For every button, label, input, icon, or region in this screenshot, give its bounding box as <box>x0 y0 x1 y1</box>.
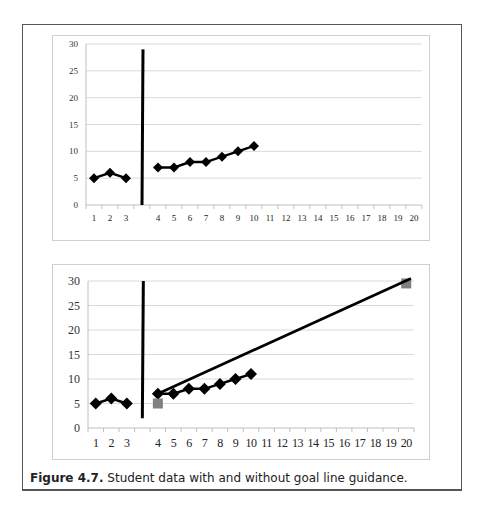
data-point <box>169 162 179 172</box>
y-tick-label: 0 <box>74 200 79 210</box>
x-tick-label: 5 <box>171 436 177 450</box>
data-point <box>90 398 102 410</box>
x-tick-label: 6 <box>186 436 192 450</box>
x-tick-label: 13 <box>298 213 308 223</box>
y-tick-label: 5 <box>74 173 79 183</box>
x-tick-label: 13 <box>292 436 304 450</box>
x-tick-label: 4 <box>156 213 161 223</box>
figure-caption: Figure 4.7. Student data with and withou… <box>30 471 408 485</box>
x-tick-label: 8 <box>217 436 223 450</box>
x-tick-label: 16 <box>346 213 356 223</box>
x-tick-label: 17 <box>362 213 372 223</box>
chart-without-goal-line: 0510152025301234567891011121314151617181… <box>52 35 430 241</box>
phase-change-line <box>142 281 143 418</box>
data-point <box>121 398 133 410</box>
y-tick-label: 25 <box>69 66 79 76</box>
x-tick-label: 12 <box>277 436 289 450</box>
chart-with-goal-line: 0510152025301234567891011121314151617181… <box>52 264 430 460</box>
y-tick-label: 5 <box>74 397 80 411</box>
y-tick-label: 30 <box>69 39 79 49</box>
caption-text: Student data with and without goal line … <box>104 471 408 485</box>
x-tick-label: 18 <box>378 213 388 223</box>
data-point <box>233 146 243 156</box>
y-tick-label: 30 <box>68 274 80 288</box>
data-point <box>217 152 227 162</box>
caption-label: Figure 4.7. <box>30 471 104 485</box>
data-point <box>105 168 115 178</box>
y-tick-label: 15 <box>68 348 80 362</box>
x-tick-label: 20 <box>410 213 420 223</box>
data-point <box>249 141 259 151</box>
y-tick-label: 10 <box>68 372 80 386</box>
x-tick-label: 9 <box>236 213 241 223</box>
x-tick-label: 6 <box>188 213 193 223</box>
x-tick-label: 10 <box>250 213 260 223</box>
y-tick-label: 20 <box>68 323 80 337</box>
x-tick-label: 9 <box>233 436 239 450</box>
data-point <box>153 162 163 172</box>
x-tick-label: 7 <box>204 213 209 223</box>
x-tick-label: 16 <box>339 436 351 450</box>
y-tick-label: 25 <box>68 299 80 313</box>
x-tick-label: 1 <box>92 213 97 223</box>
y-tick-label: 15 <box>69 120 79 130</box>
y-tick-label: 10 <box>69 146 79 156</box>
x-tick-label: 2 <box>108 213 113 223</box>
x-tick-label: 14 <box>314 213 324 223</box>
x-tick-label: 12 <box>282 213 291 223</box>
x-tick-label: 17 <box>354 436 366 450</box>
x-tick-label: 2 <box>109 436 115 450</box>
x-tick-label: 11 <box>261 436 272 450</box>
x-tick-label: 10 <box>246 436 258 450</box>
x-tick-label: 3 <box>124 213 129 223</box>
x-tick-label: 11 <box>266 213 275 223</box>
x-tick-label: 5 <box>172 213 177 223</box>
y-tick-label: 20 <box>69 93 79 103</box>
data-point <box>121 173 131 183</box>
chart-plot-top: 0510152025301234567891011121314151617181… <box>53 36 431 242</box>
goal-marker <box>153 399 163 409</box>
data-point <box>89 173 99 183</box>
chart-plot-bottom: 0510152025301234567891011121314151617181… <box>53 265 431 461</box>
data-point <box>185 157 195 167</box>
x-tick-label: 15 <box>323 436 335 450</box>
x-tick-label: 1 <box>93 436 99 450</box>
x-tick-label: 19 <box>385 436 397 450</box>
goal-line <box>158 279 411 394</box>
data-point <box>183 383 195 395</box>
x-tick-label: 19 <box>394 213 404 223</box>
x-tick-label: 4 <box>155 436 161 450</box>
data-point <box>198 383 210 395</box>
data-point <box>214 378 226 390</box>
y-tick-label: 0 <box>74 421 80 435</box>
x-tick-label: 18 <box>370 436 382 450</box>
x-tick-label: 3 <box>124 436 130 450</box>
x-tick-label: 8 <box>220 213 225 223</box>
data-point <box>245 368 257 380</box>
data-point <box>229 373 241 385</box>
x-tick-label: 20 <box>401 436 413 450</box>
x-tick-label: 15 <box>330 213 340 223</box>
data-point <box>201 157 211 167</box>
phase-change-line <box>142 49 143 205</box>
data-point <box>105 393 117 405</box>
x-tick-label: 14 <box>308 436 320 450</box>
x-tick-label: 7 <box>202 436 208 450</box>
